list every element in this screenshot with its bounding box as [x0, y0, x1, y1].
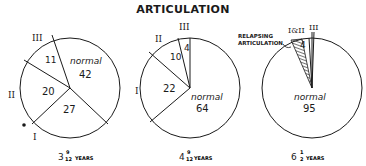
value-III: 11: [45, 55, 56, 65]
relapsing-label-1: RELAPSING: [238, 33, 273, 39]
svg-text:9: 9: [66, 149, 70, 155]
label-normal: normal: [70, 56, 102, 66]
value-normal: 64: [196, 103, 209, 114]
relapsing-label-2: ARTICULATION: [238, 40, 283, 46]
value-normal: 95: [303, 103, 316, 114]
value-II: 10: [170, 52, 182, 62]
age-label: 3: [58, 152, 64, 162]
label-III: III: [32, 33, 43, 43]
svg-text:4: 4: [179, 152, 185, 162]
svg-text:12: 12: [65, 156, 72, 162]
value-II: 20: [42, 86, 55, 97]
label-I: I: [33, 132, 37, 142]
label-normal: normal: [294, 92, 326, 102]
svg-text:YEARS: YEARS: [305, 155, 325, 161]
label-normal: normal: [191, 92, 223, 102]
label-I: I: [135, 86, 139, 96]
svg-text:YEARS: YEARS: [193, 155, 213, 161]
value-I: 27: [63, 104, 76, 115]
svg-text:6: 6: [291, 152, 297, 162]
label-III: III: [179, 22, 190, 32]
value-I: 22: [163, 83, 176, 94]
asterisk-marker: [22, 123, 26, 127]
label-I-II: I&II: [288, 26, 305, 35]
pie-chart-6-1-2-years: normal 95 4 I&II III RELAPSING ARTICULAT…: [238, 23, 362, 162]
label-II: II: [8, 90, 16, 100]
value-I-II: 4: [300, 40, 306, 50]
pie-chart-4-9-12-years: normal 64 4 10 22 III II I 4 9 12 YEARS: [135, 22, 240, 162]
svg-text:9: 9: [187, 149, 191, 155]
svg-text:YEARS: YEARS: [74, 155, 94, 161]
value-normal: 42: [79, 69, 92, 80]
label-III: III: [309, 23, 318, 32]
value-III: 4: [184, 43, 190, 53]
svg-text:2: 2: [300, 156, 304, 162]
pie-charts: normal 42 11 20 27 III II I 3 9 12 YEARS…: [0, 0, 366, 166]
label-II: II: [155, 34, 163, 44]
svg-text:12: 12: [186, 156, 193, 162]
svg-text:1: 1: [300, 149, 304, 155]
pie-chart-3-9-12-years: normal 42 11 20 27 III II I 3 9 12 YEARS: [8, 33, 120, 162]
